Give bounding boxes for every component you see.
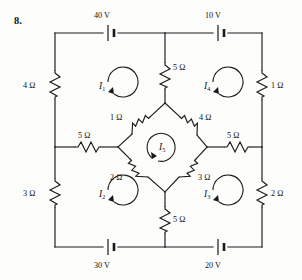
res-mid-right: 5 Ω [224, 131, 250, 152]
mesh-1: I1 [98, 67, 138, 97]
res-diamond-tr-zigzag [180, 116, 197, 135]
mesh-2-arrow-icon [108, 195, 114, 202]
res-right-lower-zigzag [257, 178, 267, 208]
inner-branch-wires [55, 33, 262, 247]
res-mid-left: 5 Ω [75, 131, 101, 152]
res-bottom-center: 5 Ω [160, 206, 185, 234]
src-top-left-label: 40 V [94, 11, 110, 20]
res-left-lower-label: 3 Ω [23, 189, 35, 198]
mesh-4-arrow-icon [213, 87, 219, 94]
res-diamond-tr: 4 Ω [180, 113, 211, 135]
mesh-5-label: I5 [158, 142, 165, 153]
res-right-upper: 1 Ω [257, 70, 283, 100]
res-diamond-br: 3 Ω [179, 159, 210, 182]
res-bottom-center-zigzag [160, 206, 170, 234]
res-left-lower: 3 Ω [23, 178, 60, 208]
res-diamond-tl-zigzag [132, 116, 150, 134]
wire-diamond-tr-a [165, 103, 180, 117]
res-right-lower: 2 Ω [257, 178, 283, 208]
res-diamond-tl: 1 Ω [110, 113, 150, 134]
src-top-right-label: 10 V [205, 11, 221, 20]
res-top-center: 5 Ω [160, 62, 185, 90]
res-left-upper-zigzag [50, 70, 60, 100]
res-diamond-tr-label: 4 Ω [199, 113, 211, 122]
res-right-lower-label: 2 Ω [271, 189, 283, 198]
res-mid-left-zigzag [75, 142, 101, 152]
res-right-upper-zigzag [257, 70, 267, 100]
res-left-upper-label: 4 Ω [23, 81, 35, 90]
mesh-3-arrow-icon [213, 195, 219, 202]
res-mid-left-label: 5 Ω [78, 131, 90, 140]
figure-page: 4 Ω 3 Ω 1 Ω 2 Ω 5 Ω 5 Ω 5 [0, 0, 302, 280]
src-bottom-right: 20 V [205, 239, 224, 270]
src-top-left: 40 V [94, 11, 114, 41]
res-mid-right-zigzag [224, 142, 250, 152]
res-left-lower-zigzag [50, 178, 60, 208]
circuit-diagram: 4 Ω 3 Ω 1 Ω 2 Ω 5 Ω 5 Ω 5 [0, 0, 302, 280]
mesh-4-label: I4 [203, 81, 210, 92]
res-bottom-center-label: 5 Ω [173, 215, 185, 224]
res-diamond-br-zigzag [179, 159, 198, 177]
src-top-right: 10 V [205, 11, 224, 41]
res-right-upper-label: 1 Ω [271, 81, 283, 90]
outer-frame-wires [55, 33, 262, 247]
src-bottom-left-label: 30 V [94, 261, 110, 270]
res-mid-right-label: 5 Ω [227, 131, 239, 140]
wire-diamond-bl-a [118, 147, 130, 159]
res-top-center-label: 5 Ω [173, 63, 185, 72]
res-diamond-br-label: 3 Ω [198, 173, 210, 182]
mesh-2-label: I2 [98, 189, 105, 200]
res-left-upper: 4 Ω [23, 70, 60, 100]
wire-diamond-tl-a [150, 103, 165, 117]
wire-diamond-tr-b [197, 135, 207, 147]
mesh-5-arrow-icon [151, 152, 157, 159]
res-diamond-tl-label: 1 Ω [110, 113, 122, 122]
res-diamond-bl: 2 Ω [110, 159, 148, 182]
wire-diamond-br-a [196, 147, 207, 159]
mesh-5: I5 [147, 133, 175, 161]
src-bottom-left: 30 V [94, 239, 114, 270]
wire-diamond-br-b [165, 177, 179, 192]
wire-diamond-bl-b [148, 177, 165, 192]
res-top-center-zigzag [160, 62, 170, 90]
mesh-4: I4 [203, 67, 243, 97]
mesh-1-label: I1 [98, 81, 105, 92]
mesh-1-arrow-icon [108, 87, 114, 94]
src-bottom-right-label: 20 V [205, 261, 221, 270]
wire-diamond-tl-b [118, 134, 132, 147]
res-diamond-bl-zigzag [128, 159, 148, 177]
problem-number: 8. [14, 15, 22, 26]
mesh-3-label: I3 [203, 189, 210, 200]
